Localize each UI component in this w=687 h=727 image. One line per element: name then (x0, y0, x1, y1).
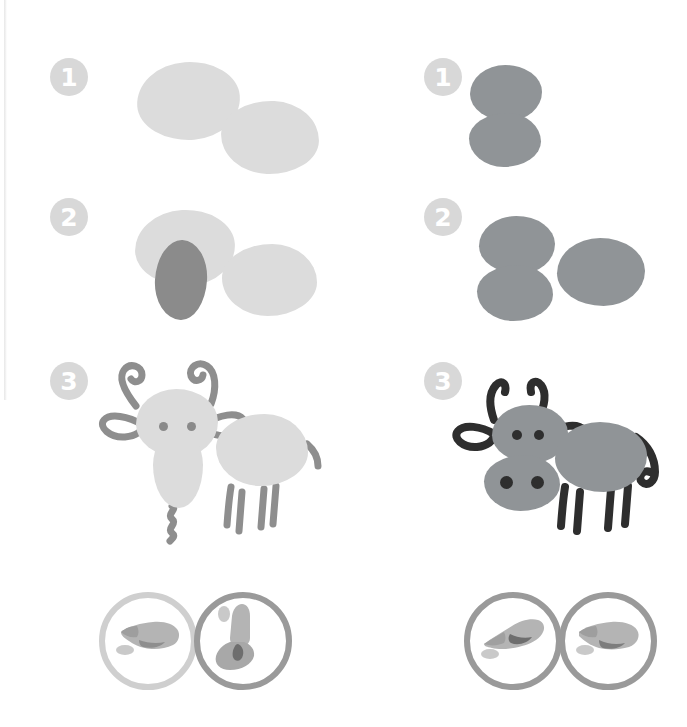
print-dab-mark (576, 645, 594, 655)
cow-ear-left-icon (456, 427, 494, 447)
hand-icon-finger-pointing-down-right (464, 592, 550, 678)
cow-nostril-right (531, 476, 544, 489)
cow-step3-print-muzzle (484, 455, 560, 511)
cow-eye-left (512, 430, 522, 440)
tutorial-sheet: 1 2 3 (0, 0, 687, 727)
hand-icon-finger-pad-flat-left (99, 592, 185, 678)
cow-leg-4 (625, 486, 628, 524)
cow-leg-3 (608, 489, 611, 528)
cow-eye-right (534, 430, 544, 440)
hand-icon-finger-tip-upright-left (194, 592, 280, 678)
print-dab-mark (116, 645, 134, 655)
cow-nostril-left (500, 476, 513, 489)
hand-icon-finger-pad-flat-right (559, 592, 645, 678)
cow-leg-2 (577, 492, 580, 531)
print-dab-mark (218, 606, 230, 622)
cow-leg-1 (561, 487, 565, 526)
cow-step3-print-body (555, 422, 647, 492)
print-dab-mark (481, 649, 499, 659)
